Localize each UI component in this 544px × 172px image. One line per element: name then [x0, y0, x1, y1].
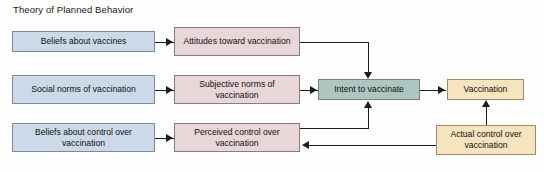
edge-intent-to-vaccination-arrowhead [438, 86, 445, 94]
node-intent-to-vaccinate-label: Intent to vaccinate [334, 84, 404, 95]
node-attitudes-toward-vaccination[interactable]: Attitudes toward vaccination [174, 27, 300, 56]
node-subjective-norms-of-vaccination[interactable]: Subjective norms of vaccination [174, 75, 300, 104]
edge-attitudes-to-intent-arrowhead [364, 72, 372, 79]
node-intent-to-vaccinate[interactable]: Intent to vaccinate [318, 79, 420, 100]
edge-socialnorms-to-subjective-arrowhead [166, 86, 173, 94]
edge-beliefscontrol-to-perceived-arrowhead [166, 134, 173, 142]
edge-actualcontrol-to-perceived-line [308, 145, 436, 146]
node-social-norms-of-vaccination[interactable]: Social norms of vaccination [12, 75, 155, 104]
edge-beliefs-to-attitudes-arrowhead [166, 38, 173, 46]
node-social-norms-of-vaccination-label: Social norms of vaccination [31, 84, 136, 95]
edge-actualcontrol-to-perceived-arrowhead [302, 141, 309, 149]
node-vaccination[interactable]: Vaccination [447, 79, 524, 100]
node-subjective-norms-label: Subjective norms of vaccination [177, 79, 297, 101]
edge-perceived-to-intent-segment-h [300, 128, 369, 129]
edge-actualcontrol-to-vaccination-arrowhead [482, 100, 490, 107]
node-beliefs-about-control-label: Beliefs about control over vaccination [15, 127, 152, 149]
node-actual-control-over-vaccination[interactable]: Actual control over vaccination [436, 125, 536, 155]
node-perceived-control-over-vaccination[interactable]: Perceived control over vaccination [174, 123, 300, 152]
diagram-title: Theory of Planned Behavior [13, 4, 133, 15]
edge-subjective-to-intent-arrowhead [310, 86, 317, 94]
node-beliefs-about-control-over-vaccination[interactable]: Beliefs about control over vaccination [12, 123, 155, 152]
edge-perceived-to-intent-arrowhead [364, 101, 372, 108]
node-vaccination-label: Vaccination [464, 84, 508, 95]
edge-attitudes-to-intent-segment-v [368, 42, 369, 75]
node-beliefs-about-vaccines[interactable]: Beliefs about vaccines [12, 31, 155, 52]
node-actual-control-label: Actual control over vaccination [439, 129, 533, 151]
node-attitudes-toward-vaccination-label: Attitudes toward vaccination [183, 36, 290, 47]
node-perceived-control-label: Perceived control over vaccination [177, 127, 297, 149]
node-beliefs-about-vaccines-label: Beliefs about vaccines [41, 36, 127, 47]
diagram-canvas: Theory of Planned Behavior Beliefs about… [0, 0, 544, 172]
edge-actualcontrol-to-vaccination-line [486, 104, 487, 125]
edge-attitudes-to-intent-segment-h [300, 42, 369, 43]
